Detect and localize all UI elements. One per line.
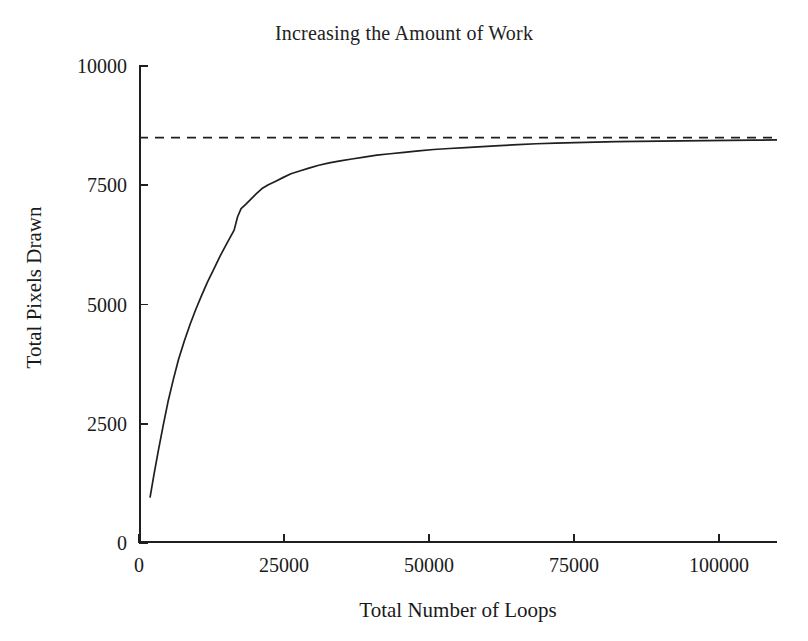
x-tick-label: 75000 xyxy=(549,554,599,577)
x-tick-label: 100000 xyxy=(689,554,749,577)
x-tick-label: 0 xyxy=(134,554,144,577)
y-tick-label: 5000 xyxy=(87,293,127,316)
chart-figure: Increasing the Amount of Work Total Pixe… xyxy=(0,0,808,641)
y-axis-title: Total Pixels Drawn xyxy=(22,168,47,408)
data-series-line xyxy=(150,140,777,498)
x-axis-title: Total Number of Loops xyxy=(139,598,777,623)
x-tick-label: 25000 xyxy=(259,554,309,577)
plot-area: 025005000750010000 025000500007500010000… xyxy=(139,66,777,543)
y-tick-label: 2500 xyxy=(87,412,127,435)
x-tick-label: 50000 xyxy=(404,554,454,577)
y-tick-label: 7500 xyxy=(87,174,127,197)
chart-title: Increasing the Amount of Work xyxy=(0,22,808,45)
y-tick-label: 10000 xyxy=(77,55,127,78)
data-layer xyxy=(139,66,777,543)
y-tick-label: 0 xyxy=(117,532,127,555)
